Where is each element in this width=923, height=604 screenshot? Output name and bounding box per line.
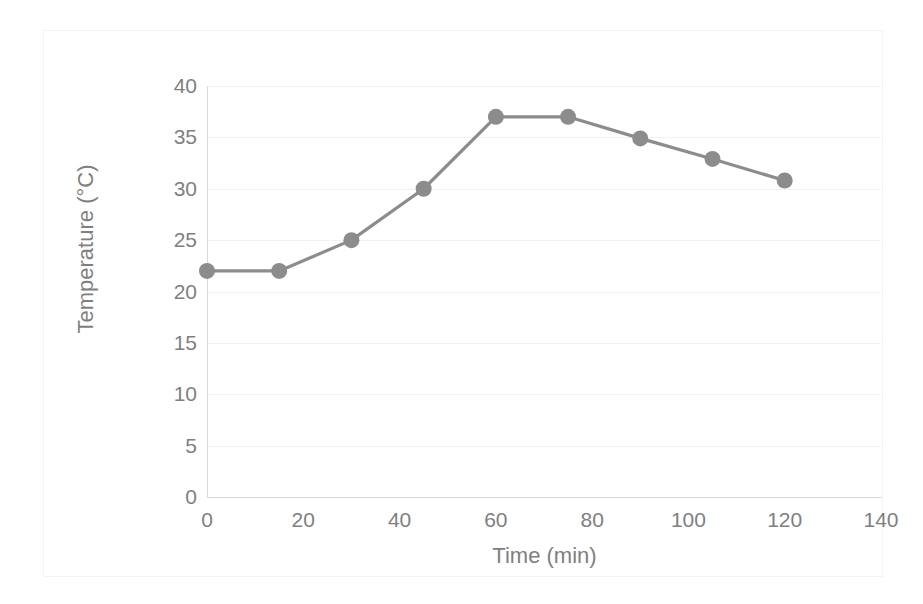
data-point-75: [560, 109, 576, 125]
data-point-30: [343, 232, 359, 248]
chart-card: 0510152025303540 020406080100120140 Time…: [43, 30, 883, 577]
data-point-0: [199, 263, 215, 279]
series-line-temperature: [207, 117, 785, 271]
data-point-15: [271, 263, 287, 279]
data-point-105: [705, 151, 721, 167]
data-point-45: [416, 181, 432, 197]
data-point-60: [488, 109, 504, 125]
data-point-120: [777, 173, 793, 189]
x-axis-title: Time (min): [207, 543, 882, 569]
y-axis-title: Temperature (°C): [73, 129, 99, 369]
line-series-temperature: [44, 31, 884, 578]
data-point-90: [632, 130, 648, 146]
